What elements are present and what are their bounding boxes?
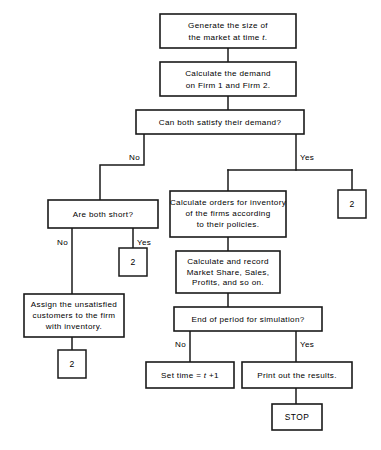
node-set-time-label: Set time = t +1 (161, 371, 219, 380)
node-stop-label: STOP (285, 412, 310, 422)
line-satisfy-no (100, 134, 144, 200)
set-time-suffix: +1 (206, 371, 219, 380)
branch-label-short-no: No (57, 238, 68, 247)
node-calculate-orders-line-3: to their policies. (197, 220, 260, 229)
node-assign-customers[interactable]: Assign the unsatisfied customers to the … (24, 294, 124, 337)
flowchart-diagram: Generate the size of the market at time … (0, 0, 381, 450)
node-calculate-record-line-2: Market Share, Sales, (187, 268, 270, 277)
node-generate-market-line-2: the market at time t. (189, 33, 268, 42)
node-calculate-orders-line-2: of the firms according (185, 209, 270, 218)
generate-market-trailing: . (265, 33, 268, 42)
connector-node-assign-label: 2 (70, 359, 75, 369)
node-calculate-record-line-3: Profits, and so on. (192, 278, 264, 287)
node-are-both-short[interactable]: Are both short? (48, 200, 158, 228)
set-time-prefix: Set time = (161, 371, 204, 380)
generate-market-line2-text: the market at time (189, 33, 260, 42)
node-assign-customers-line-1: Assign the unsatisfied (31, 300, 117, 309)
node-calculate-demand-box (160, 62, 296, 96)
node-can-both-satisfy-label: Can both satisfy their demand? (159, 118, 282, 127)
node-print-results[interactable]: Print out the results. (242, 362, 352, 388)
node-print-results-label: Print out the results. (257, 371, 337, 380)
node-set-time[interactable]: Set time = t +1 (146, 362, 234, 388)
node-calculate-demand[interactable]: Calculate the demand on Firm 1 and Firm … (160, 62, 296, 96)
connector-node-right[interactable]: 2 (338, 190, 366, 218)
connector-node-short-yes-label: 2 (131, 257, 136, 267)
node-calculate-orders[interactable]: Calculate orders for inventory of the fi… (170, 191, 287, 237)
node-calculate-demand-line-1: Calculate the demand (185, 69, 271, 78)
connector-node-assign[interactable]: 2 (58, 350, 86, 378)
node-calculate-orders-line-1: Calculate orders for inventory (170, 198, 287, 207)
connector-node-right-label: 2 (350, 199, 355, 209)
branch-label-period-yes: Yes (300, 340, 314, 349)
connector-node-short-yes[interactable]: 2 (119, 248, 147, 276)
node-generate-market[interactable]: Generate the size of the market at time … (160, 14, 296, 48)
node-generate-market-box (160, 14, 296, 48)
branch-label-short-yes: Yes (137, 238, 151, 247)
node-end-of-period-label: End of period for simulation? (191, 315, 304, 324)
node-generate-market-line-1: Generate the size of (188, 21, 268, 30)
node-are-both-short-label: Are both short? (73, 210, 134, 219)
branch-label-satisfy-no: No (129, 153, 140, 162)
node-calculate-record[interactable]: Calculate and record Market Share, Sales… (176, 251, 280, 293)
node-stop[interactable]: STOP (272, 404, 322, 430)
node-calculate-record-line-1: Calculate and record (187, 257, 269, 266)
node-end-of-period[interactable]: End of period for simulation? (174, 307, 322, 331)
node-can-both-satisfy[interactable]: Can both satisfy their demand? (136, 110, 304, 134)
node-assign-customers-line-2: customers to the firm (33, 311, 116, 320)
branch-label-period-no: No (175, 340, 186, 349)
node-assign-customers-line-3: with inventory. (45, 322, 102, 331)
branch-label-satisfy-yes: Yes (300, 153, 314, 162)
node-calculate-demand-line-2: on Firm 1 and Firm 2. (186, 81, 271, 90)
flowchart-canvas: Generate the size of the market at time … (0, 0, 381, 450)
